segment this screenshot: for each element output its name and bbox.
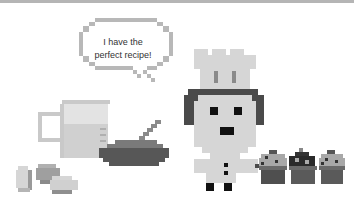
- cupcake-tray-icon: [255, 146, 345, 191]
- eye-right: [234, 107, 242, 115]
- eggs-icon: [10, 158, 85, 203]
- cupcake-3-icon: [319, 150, 345, 184]
- chef-hat-icon: [194, 49, 256, 89]
- speech-line-1: I have the: [92, 36, 154, 49]
- top-border: [0, 0, 354, 3]
- mixing-bowl-icon: [95, 118, 170, 168]
- mouth: [220, 127, 234, 135]
- cupcake-2-icon: [289, 148, 317, 184]
- eye-left: [210, 107, 218, 115]
- spoon-icon: [139, 120, 161, 140]
- speech-line-2: perfect recipe!: [92, 49, 154, 62]
- cupcake-1-icon: [259, 150, 287, 184]
- speech-text: I have the perfect recipe!: [92, 36, 154, 62]
